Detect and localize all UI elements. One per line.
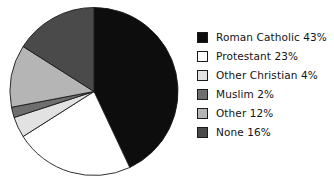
pie-plot-area <box>0 0 190 179</box>
legend-item-other[interactable]: Other 12% <box>197 104 334 123</box>
legend-item-muslim[interactable]: Muslim 2% <box>197 85 334 104</box>
legend-label-protestant: Protestant 23% <box>216 51 298 62</box>
legend-swatch-other-christian <box>197 70 208 81</box>
legend-swatch-other <box>197 108 208 119</box>
legend-label-other: Other 12% <box>216 108 273 119</box>
legend-label-other-christian: Other Christian 4% <box>216 70 318 81</box>
legend-swatch-muslim <box>197 89 208 100</box>
legend-item-roman-catholic[interactable]: Roman Catholic 43% <box>197 28 334 47</box>
pie-svg <box>0 0 190 179</box>
legend-item-none[interactable]: None 16% <box>197 123 334 142</box>
pie-slice-group <box>10 7 178 175</box>
legend-item-other-christian[interactable]: Other Christian 4% <box>197 66 334 85</box>
legend-item-protestant[interactable]: Protestant 23% <box>197 47 334 66</box>
legend-swatch-protestant <box>197 51 208 62</box>
chart-legend: Roman Catholic 43% Protestant 23% Other … <box>197 28 334 142</box>
legend-swatch-roman-catholic <box>197 32 208 43</box>
legend-swatch-none <box>197 127 208 138</box>
legend-label-roman-catholic: Roman Catholic 43% <box>216 32 327 43</box>
pie-chart-figure: Roman Catholic 43% Protestant 23% Other … <box>0 0 334 179</box>
legend-label-none: None 16% <box>216 127 271 138</box>
legend-label-muslim: Muslim 2% <box>216 89 274 100</box>
